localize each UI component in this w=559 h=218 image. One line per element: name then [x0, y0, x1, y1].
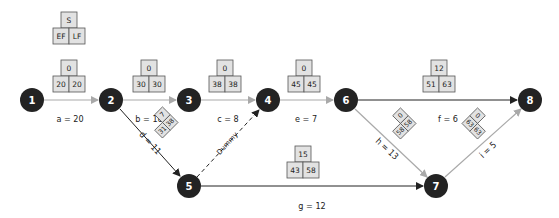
svg-text:30: 30: [152, 80, 162, 89]
svg-text:8: 8: [527, 95, 534, 106]
edge-label-e: e = 7: [295, 114, 317, 124]
legend-slack: S: [67, 16, 72, 25]
svg-text:30: 30: [136, 80, 146, 89]
svg-text:0: 0: [67, 64, 72, 73]
activity-box-c: 0 38 38: [209, 60, 241, 92]
svg-text:51: 51: [426, 80, 436, 89]
legend-lf: LF: [73, 32, 82, 41]
svg-text:2: 2: [108, 95, 115, 106]
edge-label-i: i = 5: [477, 140, 498, 160]
svg-text:7: 7: [433, 181, 440, 192]
svg-text:45: 45: [291, 80, 301, 89]
edges: [44, 100, 521, 186]
activity-box-a: 0 20 20: [53, 60, 85, 92]
edge-label-f: f = 6: [438, 114, 458, 124]
svg-text:0: 0: [147, 64, 152, 73]
node-4: 4: [256, 88, 280, 112]
svg-text:38: 38: [228, 80, 238, 89]
svg-text:4: 4: [265, 95, 272, 106]
svg-text:5: 5: [186, 181, 193, 192]
legend-box: S EF LF: [53, 12, 85, 44]
svg-text:6: 6: [343, 95, 350, 106]
node-6: 6: [334, 88, 358, 112]
node-1: 1: [20, 88, 44, 112]
svg-text:0: 0: [223, 64, 228, 73]
activity-box-b: 0 30 30: [133, 60, 165, 92]
svg-text:63: 63: [442, 80, 452, 89]
edge-h: [355, 109, 427, 177]
svg-text:38: 38: [212, 80, 222, 89]
svg-text:12: 12: [434, 64, 444, 73]
svg-text:43: 43: [290, 166, 300, 175]
legend-ef: EF: [56, 32, 65, 41]
svg-text:58: 58: [306, 166, 316, 175]
node-3: 3: [177, 88, 201, 112]
network-diagram: S EF LF a = 20 b = 10 c = 8 d = 11 Dummy…: [0, 0, 559, 218]
svg-text:45: 45: [307, 80, 317, 89]
edge-label-g: g = 12: [298, 201, 325, 211]
edge-label-dummy: Dummy: [215, 131, 239, 157]
svg-text:20: 20: [56, 80, 66, 89]
node-5: 5: [177, 174, 201, 198]
svg-text:1: 1: [29, 95, 36, 106]
node-7: 7: [424, 174, 448, 198]
activity-box-h: 0 58 58: [385, 108, 416, 139]
activity-box-e: 0 45 45: [288, 60, 320, 92]
edge-label-a: a = 20: [56, 114, 83, 124]
activity-box-g: 15 43 58: [287, 146, 319, 178]
svg-text:3: 3: [186, 95, 193, 106]
svg-text:0: 0: [302, 64, 307, 73]
svg-text:15: 15: [298, 150, 308, 159]
activity-box-f: 12 51 63: [423, 60, 455, 92]
node-2: 2: [99, 88, 123, 112]
node-8: 8: [518, 88, 542, 112]
nodes: 1 2 3 4 5 6 7 8: [20, 88, 542, 198]
edge-label-c: c = 8: [217, 114, 239, 124]
svg-text:20: 20: [72, 80, 82, 89]
activity-box-i: 0 63 63: [462, 108, 493, 139]
